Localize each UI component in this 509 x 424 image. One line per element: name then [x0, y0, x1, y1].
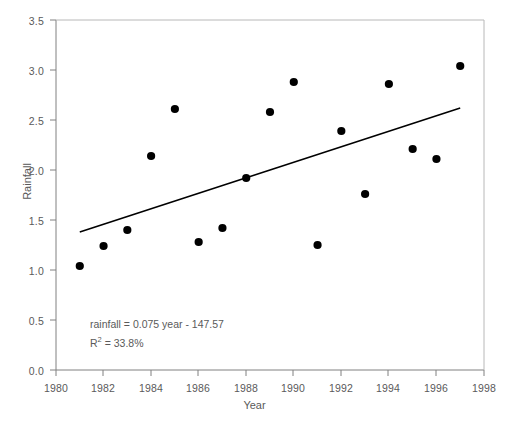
x-tick-label: 1990 [271, 383, 315, 394]
data-point [147, 152, 155, 160]
plot-area [0, 0, 509, 424]
x-axis-ticks [56, 370, 484, 376]
r-squared-symbol: R [90, 337, 98, 349]
data-point-markers [76, 62, 465, 270]
y-tick-label: 3.5 [10, 16, 44, 27]
x-tick-label: 1994 [366, 383, 410, 394]
data-point [385, 80, 393, 88]
x-tick-label: 1984 [129, 383, 173, 394]
data-point [99, 242, 107, 250]
data-point [337, 127, 345, 135]
y-tick-label: 0.0 [10, 366, 44, 377]
data-point [218, 224, 226, 232]
x-tick-label: 1992 [319, 383, 363, 394]
data-point [266, 108, 274, 116]
data-point [123, 226, 131, 234]
y-tick-label: 3.0 [10, 66, 44, 77]
data-point [76, 262, 84, 270]
regression-trendline [80, 108, 460, 232]
data-point [432, 155, 440, 163]
x-tick-label: 1980 [34, 383, 78, 394]
data-point [242, 174, 250, 182]
y-tick-label: 2.5 [10, 116, 44, 127]
y-tick-label: 0.5 [10, 316, 44, 327]
x-tick-label: 1986 [176, 383, 220, 394]
y-tick-label: 1.0 [10, 266, 44, 277]
data-point [361, 190, 369, 198]
data-point [171, 105, 179, 113]
r-squared-annotation: R2 = 33.8% [90, 336, 144, 348]
y-axis-ticks [50, 20, 56, 370]
x-tick-label: 1996 [414, 383, 458, 394]
data-point [456, 62, 464, 70]
data-point [290, 78, 298, 86]
x-tick-label: 1998 [462, 383, 506, 394]
x-axis-title: Year [0, 400, 509, 411]
scatter-chart: 0.0 0.5 1.0 1.5 2.0 2.5 3.0 3.5 1980 198… [0, 0, 509, 424]
r-squared-value: = 33.8% [102, 337, 144, 349]
data-point [195, 238, 203, 246]
x-tick-label: 1988 [224, 383, 268, 394]
x-tick-label: 1982 [81, 383, 125, 394]
data-point [313, 241, 321, 249]
data-point [409, 145, 417, 153]
y-axis-title: Rainfall [22, 142, 33, 222]
regression-equation-annotation: rainfall = 0.075 year - 147.57 [90, 319, 224, 330]
